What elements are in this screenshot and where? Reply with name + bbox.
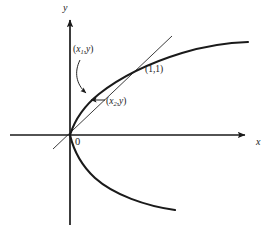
- origin-label: 0: [75, 137, 80, 148]
- curve-lower-branch: [70, 135, 175, 210]
- point-label-x2y-var2: y: [119, 96, 123, 106]
- point-label-x2y-sub: 2: [113, 100, 116, 107]
- point-label-one-one: (1,1): [145, 65, 163, 75]
- curve-upper-branch: [70, 42, 248, 135]
- leader-arrow-x1y: [77, 60, 86, 93]
- plot-svg: [0, 0, 269, 231]
- point-label-x1y-var2: y: [86, 44, 90, 54]
- point-label-x2y: (x2,y): [106, 97, 126, 107]
- point-label-x1y: (x1,y): [73, 45, 93, 55]
- figure-canvas: y x 0 (x1,y) (x2,y) (1,1): [0, 0, 269, 231]
- x-axis-label: x: [256, 137, 260, 147]
- point-label-x1y-sub: 1: [80, 48, 83, 55]
- y-axis-label: y: [63, 3, 67, 13]
